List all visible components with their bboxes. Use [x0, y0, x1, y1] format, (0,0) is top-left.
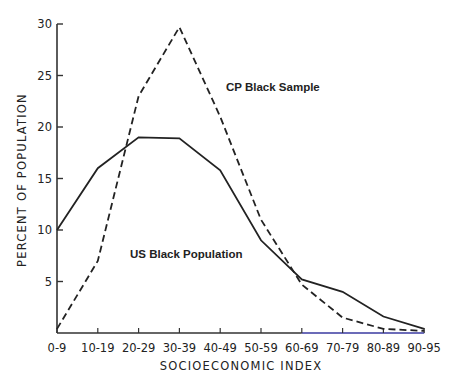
- x-tick-label: 50-59: [244, 341, 277, 355]
- y-tick-label: 25: [37, 69, 52, 83]
- x-tick-label: 10-19: [81, 341, 114, 355]
- y-tick-label: 30: [37, 17, 52, 31]
- series-line-cp-black-sample: [57, 27, 424, 331]
- x-tick-label: 30-39: [163, 341, 196, 355]
- x-tick-label: 70-79: [326, 341, 359, 355]
- y-tick-label: 20: [37, 120, 52, 134]
- series-line-us-black-population: [57, 137, 424, 329]
- x-tick-label: 20-29: [122, 341, 155, 355]
- y-tick-label: 5: [45, 275, 52, 289]
- series-group: [57, 27, 424, 331]
- x-tick-label: 80-89: [367, 341, 400, 355]
- x-tick-label: 40-49: [203, 341, 236, 355]
- x-axis-title: SOCIOECONOMIC INDEX: [160, 359, 323, 373]
- y-tick-label: 10: [37, 223, 52, 237]
- series-label-us-black-population: US Black Population: [130, 248, 242, 260]
- series-label-cp-black-sample: CP Black Sample: [226, 81, 320, 93]
- x-tick-label: 0-9: [48, 341, 67, 355]
- x-tick-label: 60-69: [285, 341, 318, 355]
- x-axis: 0-910-1920-2930-3940-4950-5960-6970-7980…: [48, 328, 441, 355]
- y-axis: 51015202530: [37, 17, 63, 333]
- line-chart: 51015202530 0-910-1920-2930-3940-4950-59…: [0, 0, 457, 384]
- y-tick-label: 15: [37, 172, 52, 186]
- y-axis-title: PERCENT OF POPULATION: [15, 93, 29, 267]
- x-tick-label: 90-95: [407, 341, 440, 355]
